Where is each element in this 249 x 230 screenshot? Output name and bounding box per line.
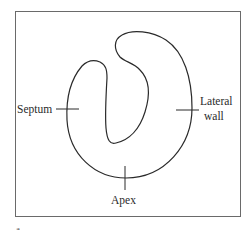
septum-label: Septum xyxy=(17,103,52,116)
lateral-wall-label-line2: wall xyxy=(204,110,224,122)
caption-fragment: a xyxy=(16,224,20,230)
apex-label: Apex xyxy=(111,194,136,207)
ventricle-outline xyxy=(67,32,192,178)
ventricle-diagram: Septum Lateral wall Apex a xyxy=(0,0,249,230)
lateral-wall-label-line1: Lateral xyxy=(200,95,233,107)
